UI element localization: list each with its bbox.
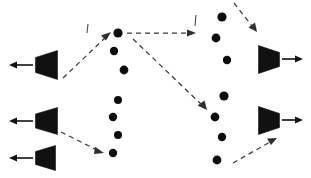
left-port-2-arrow-icon (9, 117, 17, 124)
edge-arrow-icon (267, 138, 277, 145)
left-port-3-arrow-icon (9, 154, 17, 161)
tick-mark (87, 24, 88, 33)
dot-node[interactable] (213, 156, 222, 165)
dot-node[interactable] (120, 66, 129, 75)
dot-node[interactable] (217, 12, 226, 21)
left-port-1[interactable] (9, 51, 58, 80)
edge-arrow-icon (101, 32, 111, 41)
left-port-1-arrow-icon (9, 61, 17, 68)
dot-node[interactable] (223, 56, 231, 64)
dot-node[interactable] (114, 131, 122, 139)
right-port-2-arrow-icon (295, 116, 303, 123)
dot-node[interactable] (109, 149, 117, 157)
dot-node[interactable] (113, 28, 122, 37)
right-dots-group (211, 12, 232, 164)
edge-bottom-boundary-to-right-port2[interactable] (233, 138, 277, 163)
edge-middle1-to-right5[interactable] (133, 39, 207, 110)
edge-top-boundary-to-right-port1[interactable] (234, 3, 257, 32)
left-port-2[interactable] (9, 108, 58, 135)
right-port-1[interactable] (259, 46, 304, 74)
trapezoid-left-icon (36, 108, 58, 135)
trapezoid-right-icon (259, 107, 280, 135)
edge-middle1-to-right-boundary[interactable] (127, 30, 196, 37)
edge-arrow-icon (94, 147, 104, 154)
trapezoid-right-icon (259, 46, 280, 74)
edge-left1-to-middle1[interactable] (63, 32, 111, 78)
edge-line (234, 3, 252, 26)
diagram-svg (0, 0, 311, 178)
dot-node[interactable] (114, 96, 122, 104)
left-port-3[interactable] (9, 146, 56, 171)
dot-node[interactable] (218, 133, 226, 141)
dot-node[interactable] (211, 113, 220, 122)
trapezoid-left-icon (36, 146, 56, 171)
dot-node[interactable] (110, 47, 118, 55)
trapezoid-left-icon (36, 51, 58, 80)
diagram-canvas (0, 0, 311, 178)
right-ports-group (259, 46, 304, 135)
edge-line (63, 37, 106, 78)
edge-line (61, 132, 97, 150)
edge-left3-to-middle7[interactable] (61, 132, 104, 154)
dot-node[interactable] (109, 113, 117, 121)
middle-dots-group (109, 28, 129, 157)
dot-node[interactable] (212, 34, 221, 43)
tick-mark (195, 15, 196, 26)
edge-arrow-icon (187, 30, 196, 37)
dot-node[interactable] (219, 91, 228, 100)
left-ports-group (9, 51, 58, 171)
edge-line (133, 39, 201, 104)
right-port-1-arrow-icon (295, 55, 303, 62)
edge-line (233, 142, 270, 163)
right-port-2[interactable] (259, 107, 304, 135)
edge-arrow-icon (249, 23, 258, 33)
dashed-edges-group (61, 3, 277, 163)
